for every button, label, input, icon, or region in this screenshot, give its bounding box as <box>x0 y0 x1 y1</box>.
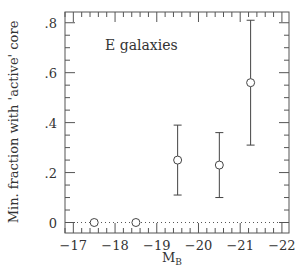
chart: −17−18−19−20−21−22 0.2.4.6.8 E galaxies … <box>0 0 302 271</box>
x-tick-label: −20 <box>185 238 212 253</box>
data-point <box>247 20 255 145</box>
open-circle-marker <box>90 219 98 227</box>
y-tick-label: 0 <box>49 216 57 231</box>
x-tick-label: −21 <box>226 238 253 253</box>
y-tick-label: .8 <box>45 16 57 31</box>
y-tick-label: .6 <box>45 66 57 81</box>
open-circle-marker <box>215 161 223 169</box>
open-circle-marker <box>174 156 182 164</box>
x-tick-label: −18 <box>101 238 128 253</box>
data-point <box>174 125 182 195</box>
y-tick-label: .2 <box>45 166 57 181</box>
open-circle-marker <box>132 219 140 227</box>
x-axis-label: MB <box>162 250 182 267</box>
data-point <box>132 219 140 227</box>
open-circle-marker <box>247 79 255 87</box>
x-tick-label: −17 <box>60 238 87 253</box>
data-point <box>90 219 98 227</box>
x-tick-label: −22 <box>268 238 295 253</box>
y-tick-label: .4 <box>45 116 57 131</box>
chart-annotation: E galaxies <box>105 37 178 53</box>
x-axis-label-main: M <box>162 250 175 265</box>
data-point <box>215 133 223 198</box>
x-axis-label-subscript: B <box>175 257 182 267</box>
y-axis-label: Min. fraction with 'active' core <box>6 20 21 223</box>
